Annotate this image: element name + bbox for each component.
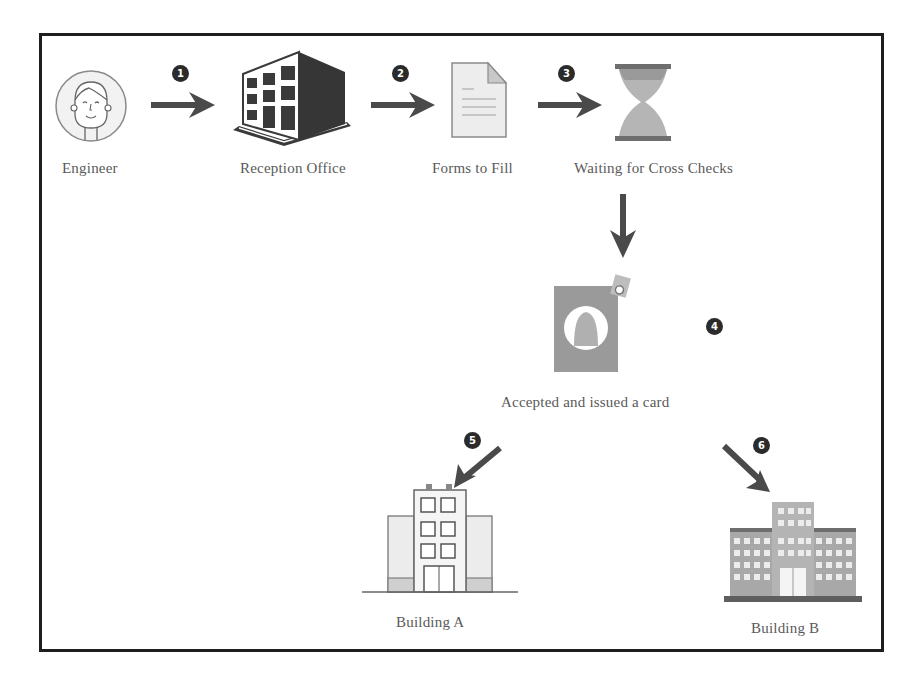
step-badge-4: 4: [706, 318, 723, 335]
building-b-icon: [722, 500, 864, 604]
node-label-building-b: Building B: [751, 620, 819, 637]
node-label-card: Accepted and issued a card: [501, 394, 669, 411]
office-building-icon: [229, 48, 354, 150]
id-card-icon: [552, 274, 636, 374]
document-form-icon: [450, 61, 508, 139]
node-label-engineer: Engineer: [62, 160, 118, 177]
step-badge-2: 2: [392, 65, 409, 82]
step-badge-3: 3: [558, 65, 575, 82]
arrow-right-icon: [371, 90, 436, 120]
arrow-right-icon: [151, 90, 216, 120]
hourglass-icon: [615, 64, 673, 142]
node-label-forms: Forms to Fill: [432, 160, 513, 177]
engineer-avatar-icon: [53, 68, 129, 144]
building-a-icon: [362, 486, 522, 602]
node-label-waiting: Waiting for Cross Checks: [574, 160, 733, 177]
arrow-right-icon: [538, 90, 603, 120]
arrow-down-icon: [608, 194, 638, 260]
node-label-building-a: Building A: [396, 614, 464, 631]
node-label-reception: Reception Office: [240, 160, 346, 177]
step-badge-1: 1: [172, 65, 189, 82]
arrow-down-right-icon: [722, 444, 774, 496]
